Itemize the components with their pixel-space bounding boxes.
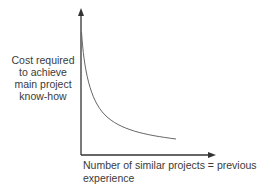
y-axis-label-line: Cost required — [8, 54, 78, 66]
y-axis-arrow-icon — [78, 8, 84, 16]
x-axis-label: Number of similar projects = previous ex… — [83, 159, 270, 185]
x-axis-arrow-icon — [208, 152, 216, 158]
y-axis-label-line: to achieve — [8, 66, 78, 78]
y-axis-label: Cost required to achieve main project kn… — [8, 54, 78, 102]
cost-curve — [82, 32, 177, 139]
x-axis-label-line: Number of similar projects = previous — [83, 159, 270, 172]
x-axis-label-line: experience — [83, 172, 270, 185]
y-axis-label-line: main project — [8, 78, 78, 90]
y-axis-label-line: know-how — [8, 90, 78, 102]
